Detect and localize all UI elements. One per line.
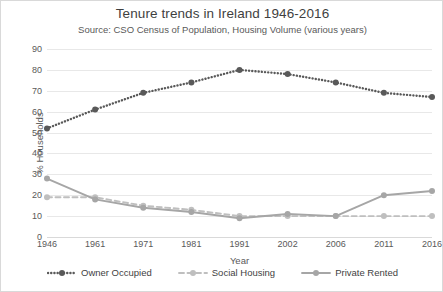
y-tick-label-50: 50 (32, 128, 42, 138)
legend-swatch-icon (47, 268, 77, 278)
y-tick-label-80: 80 (32, 65, 42, 75)
data-point (44, 194, 50, 200)
data-point (333, 79, 339, 85)
data-point (381, 192, 387, 198)
x-tick-label-1971: 1971 (133, 239, 153, 249)
series-owner-occupied (44, 67, 435, 131)
x-axis-label: Year (47, 255, 432, 266)
data-point (44, 176, 50, 182)
data-point (92, 196, 98, 202)
y-tick-label-10: 10 (32, 211, 42, 221)
y-tick-label-20: 20 (32, 190, 42, 200)
y-tick-label-90: 90 (32, 44, 42, 54)
y-axis-label: % Households (34, 112, 45, 173)
chart-subtitle: Source: CSO Census of Population, Housin… (1, 24, 443, 35)
data-point (92, 107, 98, 113)
legend-label: Social Housing (212, 267, 275, 278)
data-point (429, 188, 435, 194)
data-point (140, 90, 146, 96)
data-point (381, 90, 387, 96)
data-point (188, 79, 194, 85)
series-line (47, 70, 432, 128)
legend-item-owner-occupied[interactable]: Owner Occupied (47, 267, 152, 278)
x-tick-label-1981: 1981 (181, 239, 201, 249)
plot-area: % Households Year 0102030405060708090 19… (47, 49, 432, 237)
data-point (381, 213, 387, 219)
x-tick-label-2006: 2006 (326, 239, 346, 249)
chart-title: Tenure trends in Ireland 1946-2016 (1, 6, 443, 21)
x-tick-label-2002: 2002 (278, 239, 298, 249)
x-tick-label-2011: 2011 (374, 239, 393, 249)
data-point (237, 67, 243, 73)
data-point (237, 215, 243, 221)
gridline-0 (47, 237, 432, 238)
x-tick-label-2016: 2016 (422, 239, 442, 249)
series-line (47, 179, 432, 219)
data-point (285, 211, 291, 217)
data-point (188, 209, 194, 215)
data-point (140, 205, 146, 211)
y-tick-label-40: 40 (32, 148, 42, 158)
data-point (333, 213, 339, 219)
x-tick-label-1991: 1991 (229, 239, 249, 249)
data-point (285, 71, 291, 77)
legend-item-private-rented[interactable]: Private Rented (301, 267, 398, 278)
data-point (44, 125, 50, 131)
data-point (429, 94, 435, 100)
legend-swatch-icon (301, 268, 331, 278)
x-tick-label-1946: 1946 (37, 239, 57, 249)
legend-label: Private Rented (335, 267, 398, 278)
data-point (429, 213, 435, 219)
chart-legend: Owner OccupiedSocial HousingPrivate Rent… (1, 267, 443, 278)
x-tick-label-1961: 1961 (85, 239, 105, 249)
y-tick-label-70: 70 (32, 86, 42, 96)
y-tick-label-60: 60 (32, 107, 42, 117)
legend-swatch-icon (178, 268, 208, 278)
y-tick-label-30: 30 (32, 169, 42, 179)
legend-label: Owner Occupied (81, 267, 152, 278)
data-series-layer (47, 49, 432, 237)
legend-item-social-housing[interactable]: Social Housing (178, 267, 275, 278)
chart-container: Tenure trends in Ireland 1946-2016 Sourc… (0, 0, 443, 292)
